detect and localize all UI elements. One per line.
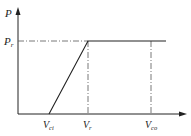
power-curve [49, 41, 166, 114]
vco-label: Vco [145, 119, 158, 131]
x-axis-arrow-icon [179, 112, 187, 117]
power-curve-chart: P Pr Vci Vr Vco [0, 0, 191, 136]
pr-label: Pr [3, 35, 14, 49]
y-axis-arrow-icon [16, 7, 21, 15]
vr-label: Vr [83, 119, 92, 131]
vci-label: Vci [43, 119, 54, 131]
y-axis-label: P [4, 7, 12, 19]
